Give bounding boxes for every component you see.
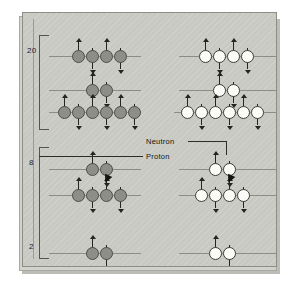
proton-circle — [86, 247, 99, 260]
spin-arrowhead-down — [245, 70, 251, 74]
neutron-circle — [209, 247, 222, 260]
neutron-circle — [209, 163, 222, 176]
spin-arrowhead-down — [132, 126, 138, 130]
bracket-tick-bottom — [40, 129, 49, 130]
spin-arrowhead-down — [199, 126, 205, 130]
proton-leader-line — [39, 156, 143, 157]
neutron-circle — [227, 84, 240, 97]
proton-circle — [114, 189, 127, 202]
magic-number-label-20: 20 — [27, 47, 36, 55]
spin-arrowhead-down — [118, 209, 124, 213]
proton-circle — [100, 106, 113, 119]
proton-label: Proton — [146, 153, 170, 161]
axis-rule — [33, 19, 34, 259]
magic-number-bracket — [39, 35, 40, 130]
spin-arrowhead-down — [241, 209, 247, 213]
neutron-circle — [237, 189, 250, 202]
neutron-circle — [209, 106, 222, 119]
neutron-circle — [199, 50, 212, 63]
proton-circle — [86, 106, 99, 119]
neutron-label: Neutron — [146, 138, 174, 146]
proton-circle — [100, 50, 113, 63]
proton-circle — [72, 189, 85, 202]
magic-number-label-8: 8 — [29, 159, 34, 167]
neutron-circle — [195, 189, 208, 202]
shell-model-panel: 2082NeutronProton — [22, 12, 277, 267]
neutron-circle — [195, 106, 208, 119]
spin-arrowhead-down — [118, 70, 124, 74]
figure-root: 2082NeutronProton — [0, 0, 300, 283]
spin-arrowhead-down — [255, 126, 261, 130]
neutron-circle — [227, 50, 240, 63]
proton-circle — [128, 106, 141, 119]
magic-number-bracket — [39, 147, 40, 259]
spin-arrowhead-down — [213, 209, 219, 213]
bracket-tick-bottom — [40, 258, 49, 259]
neutron-circle — [237, 106, 250, 119]
neutron-circle — [181, 106, 194, 119]
spin-arrowhead-down — [90, 209, 96, 213]
proton-circle — [86, 189, 99, 202]
neutron-circle — [223, 247, 236, 260]
proton-circle — [86, 50, 99, 63]
proton-circle — [114, 106, 127, 119]
spin-arrowhead-down — [104, 126, 110, 130]
bracket-tick-top — [40, 147, 49, 148]
neutron-circle — [251, 106, 264, 119]
neutron-circle — [241, 50, 254, 63]
neutron-circle — [223, 106, 236, 119]
neutron-circle — [223, 189, 236, 202]
proton-circle — [114, 50, 127, 63]
magic-number-label-2: 2 — [29, 243, 34, 251]
neutron-leader-drop — [226, 141, 227, 155]
spin-arrowhead-down — [227, 126, 233, 130]
spin-arrowhead-down — [76, 126, 82, 130]
proton-circle — [100, 247, 113, 260]
neutron-circle — [213, 50, 226, 63]
proton-circle — [100, 84, 113, 97]
bracket-tick-top — [40, 35, 49, 36]
proton-circle — [58, 106, 71, 119]
proton-circle — [72, 106, 85, 119]
neutron-circle — [209, 189, 222, 202]
proton-circle — [100, 189, 113, 202]
proton-circle — [72, 50, 85, 63]
proton-circle — [86, 163, 99, 176]
neutron-leader-line — [188, 141, 226, 142]
